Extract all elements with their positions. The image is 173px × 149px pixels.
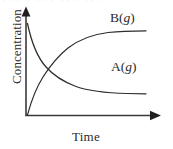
series-label-a-species: A [111, 59, 121, 74]
concentration-vs-time-figure: · ·· · ·· · ·· · ·· · Concentration Time… [0, 0, 173, 149]
series-label-a-paren-close: ) [132, 59, 137, 74]
series-label-a: A(g) [111, 60, 137, 74]
series-label-a-state: g [125, 59, 132, 74]
x-axis-title: Time [54, 130, 118, 143]
y-axis-title: Concentration [10, 5, 23, 89]
series-label-b-paren-close: ) [130, 10, 135, 25]
x-axis-arrowhead [150, 111, 161, 120]
series-label-b-species: B [110, 10, 119, 25]
series-label-b: B(g) [110, 11, 135, 25]
plot-canvas [0, 0, 173, 149]
